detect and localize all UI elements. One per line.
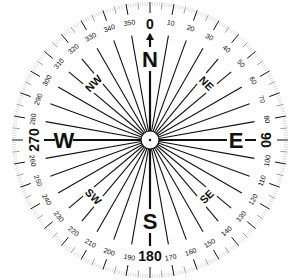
degree-tick bbox=[92, 259, 95, 265]
degree-tick bbox=[126, 265, 128, 276]
bearing-ray bbox=[157, 72, 231, 134]
degree-tick bbox=[209, 260, 211, 264]
degree-label-270: 270 bbox=[26, 128, 42, 152]
bearing-ray bbox=[69, 72, 143, 134]
degree-tick bbox=[232, 237, 239, 245]
degree-label-50: 50 bbox=[236, 58, 246, 69]
compass-rose: 0102030405060708090100110120130140150160… bbox=[0, 0, 303, 280]
degree-tick bbox=[198, 11, 199, 15]
degree-tick bbox=[107, 267, 108, 271]
degree-tick bbox=[15, 111, 19, 112]
degree-label-220: 220 bbox=[67, 225, 81, 238]
degree-tick bbox=[112, 7, 113, 11]
degree-tick bbox=[223, 252, 225, 255]
degree-tick bbox=[131, 273, 132, 277]
degree-tick bbox=[138, 3, 139, 10]
degree-tick bbox=[67, 247, 69, 250]
degree-tick bbox=[202, 263, 204, 267]
degree-tick bbox=[269, 77, 273, 79]
degree-tick bbox=[275, 91, 279, 92]
degree-tick bbox=[251, 228, 254, 231]
degree-tick bbox=[23, 86, 27, 88]
degree-tick bbox=[15, 166, 19, 167]
degree-tick bbox=[223, 24, 225, 27]
degree-tick bbox=[246, 233, 249, 236]
degree-tick bbox=[282, 166, 286, 167]
degree-tick bbox=[260, 71, 270, 77]
degree-tick bbox=[119, 6, 120, 10]
degree-label-10: 10 bbox=[166, 19, 175, 27]
degree-tick bbox=[250, 48, 253, 51]
degree-tick bbox=[18, 179, 22, 180]
degree-label-340: 340 bbox=[103, 23, 116, 34]
degree-tick bbox=[272, 84, 276, 86]
degree-tick bbox=[261, 215, 264, 217]
degree-tick bbox=[79, 22, 81, 25]
degree-tick bbox=[283, 121, 287, 122]
degree-tick bbox=[69, 248, 71, 251]
degree-tick bbox=[61, 34, 68, 42]
degree-tick bbox=[18, 100, 22, 101]
degree-tick bbox=[85, 18, 87, 22]
degree-tick bbox=[270, 199, 274, 201]
degree-tick bbox=[63, 244, 66, 247]
degree-label-40: 40 bbox=[221, 44, 232, 54]
degree-tick bbox=[191, 9, 192, 13]
degree-tick bbox=[107, 9, 108, 13]
degree-tick bbox=[258, 219, 261, 221]
degree-tick bbox=[49, 46, 52, 49]
bearing-ray bbox=[157, 146, 231, 208]
degree-label-330: 330 bbox=[84, 31, 98, 43]
degree-tick bbox=[21, 188, 25, 189]
degree-tick bbox=[161, 271, 162, 278]
degree-tick bbox=[176, 5, 177, 9]
degree-tick bbox=[96, 13, 98, 17]
degree-tick bbox=[205, 262, 207, 266]
degree-tick bbox=[191, 267, 192, 271]
degree-tick bbox=[243, 236, 246, 239]
degree-tick bbox=[257, 57, 260, 59]
degree-tick bbox=[275, 162, 286, 164]
degree-tick bbox=[67, 30, 69, 33]
degree-label-30: 30 bbox=[204, 32, 214, 42]
degree-tick bbox=[281, 151, 288, 152]
degree-tick bbox=[205, 14, 207, 18]
degree-tick bbox=[240, 37, 243, 40]
degree-label-230: 230 bbox=[52, 210, 65, 224]
degree-tick bbox=[121, 271, 122, 275]
degree-tick bbox=[54, 236, 57, 239]
degree-tick bbox=[17, 174, 24, 176]
degree-tick bbox=[20, 184, 24, 185]
degree-tick bbox=[105, 267, 106, 271]
degree-tick bbox=[47, 48, 50, 51]
degree-tick bbox=[270, 80, 274, 82]
degree-tick bbox=[232, 31, 234, 34]
degree-label-150: 150 bbox=[203, 237, 217, 249]
degree-tick bbox=[105, 10, 106, 14]
degree-tick bbox=[277, 95, 281, 96]
degree-tick bbox=[119, 271, 120, 275]
degree-label-250: 250 bbox=[33, 174, 44, 187]
degree-tick bbox=[198, 265, 199, 269]
degree-tick bbox=[281, 109, 285, 110]
intercardinal-nw: NW bbox=[83, 72, 105, 94]
degree-tick bbox=[81, 20, 87, 30]
degree-label-160: 160 bbox=[184, 247, 197, 258]
degree-tick bbox=[275, 116, 286, 118]
degree-label-0: 0 bbox=[146, 16, 154, 32]
degree-tick bbox=[219, 22, 221, 25]
degree-tick bbox=[73, 26, 75, 29]
degree-tick bbox=[184, 267, 186, 274]
degree-tick bbox=[180, 6, 181, 10]
degree-tick bbox=[211, 17, 213, 21]
degree-tick bbox=[243, 41, 246, 44]
degree-tick bbox=[182, 6, 183, 10]
degree-tick bbox=[277, 174, 284, 176]
degree-tick bbox=[40, 57, 43, 59]
degree-tick bbox=[94, 262, 96, 266]
degree-tick bbox=[47, 230, 50, 233]
degree-tick bbox=[215, 19, 217, 22]
degree-tick bbox=[261, 63, 264, 65]
degree-tick bbox=[33, 211, 36, 213]
degree-tick bbox=[21, 91, 25, 92]
